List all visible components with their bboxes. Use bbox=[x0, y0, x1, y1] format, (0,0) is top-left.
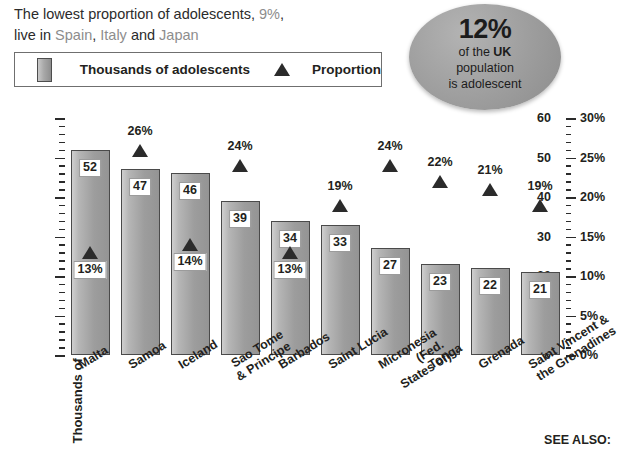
y-minor-tick-right bbox=[566, 165, 571, 167]
y-minor-tick-left bbox=[59, 173, 65, 175]
y-minor-tick-right bbox=[566, 268, 571, 270]
y-minor-tick-right bbox=[566, 300, 571, 302]
y-minor-tick-left bbox=[59, 244, 65, 246]
proportion-value-label: 13% bbox=[73, 261, 106, 279]
y-minor-tick-left bbox=[59, 134, 65, 136]
y-minor-tick-left bbox=[59, 308, 65, 310]
y-minor-tick-right bbox=[566, 181, 571, 183]
bar-2[interactable]: 47 bbox=[121, 169, 160, 355]
y-minor-tick-right bbox=[566, 142, 571, 144]
y-minor-tick-right bbox=[566, 292, 571, 294]
y-minor-tick-left bbox=[59, 205, 65, 207]
headline-sep-2: and bbox=[127, 27, 159, 43]
y-tick-right bbox=[566, 118, 576, 120]
y-tick-label-right: 30% bbox=[580, 111, 605, 125]
y-minor-tick-right bbox=[566, 229, 571, 231]
headline-country-italy: Italy bbox=[100, 27, 127, 43]
legend-bar-swatch bbox=[37, 58, 52, 82]
proportion-marker-4[interactable] bbox=[232, 159, 248, 172]
y-tick-right bbox=[566, 197, 576, 199]
uk-statistic-callout: 12% of the UK population is adolescent bbox=[409, 4, 561, 110]
proportion-marker-10[interactable] bbox=[532, 199, 548, 212]
proportion-marker-3[interactable] bbox=[182, 238, 198, 251]
y-tick-left bbox=[55, 158, 65, 160]
callout-line-1: of the UK bbox=[409, 45, 561, 60]
y-tick-left bbox=[55, 197, 65, 199]
proportion-marker-2[interactable] bbox=[132, 144, 148, 157]
y-minor-tick-right bbox=[566, 284, 571, 286]
y-minor-tick-left bbox=[59, 339, 65, 341]
y-minor-tick-right bbox=[566, 252, 571, 254]
proportion-value-label: 26% bbox=[127, 124, 152, 138]
y-tick-label-left: 60 bbox=[537, 111, 551, 125]
headline-country-spain: Spain bbox=[55, 27, 92, 43]
bar-4[interactable]: 39 bbox=[221, 201, 260, 355]
legend-bar-label: Thousands of adolescents bbox=[80, 62, 250, 77]
y-tick-label-right: 10% bbox=[580, 269, 605, 283]
proportion-marker-5[interactable] bbox=[282, 246, 298, 259]
callout-big-number: 12% bbox=[409, 14, 561, 44]
headline-line-1: The lowest proportion of adolescents, 9%… bbox=[14, 4, 414, 25]
headline-text: The lowest proportion of adolescents, 9%… bbox=[14, 4, 414, 46]
y-tick-label-right: 20% bbox=[580, 190, 605, 204]
y-minor-tick-right bbox=[566, 205, 571, 207]
y-tick-label-right: 25% bbox=[580, 151, 605, 165]
y-minor-tick-right bbox=[566, 150, 571, 152]
proportion-value-label: 24% bbox=[377, 139, 402, 153]
y-minor-tick-left bbox=[59, 221, 65, 223]
proportion-value-label: 24% bbox=[227, 139, 252, 153]
y-minor-tick-right bbox=[566, 323, 571, 325]
y-minor-tick-right bbox=[566, 173, 571, 175]
bar-value-label: 47 bbox=[129, 178, 151, 196]
y-tick-right bbox=[566, 158, 576, 160]
proportion-marker-6[interactable] bbox=[332, 199, 348, 212]
callout-uk: UK bbox=[493, 45, 511, 59]
bar-value-label: 27 bbox=[379, 257, 401, 275]
callout-line-3: is adolescent bbox=[409, 77, 561, 92]
bar-value-label: 34 bbox=[279, 230, 301, 248]
y-minor-tick-right bbox=[566, 260, 571, 262]
y-minor-tick-left bbox=[59, 189, 65, 191]
y-minor-tick-left bbox=[59, 252, 65, 254]
y-minor-tick-left bbox=[59, 284, 65, 286]
proportion-marker-8[interactable] bbox=[432, 175, 448, 188]
y-minor-tick-right bbox=[566, 134, 571, 136]
y-minor-tick-right bbox=[566, 213, 571, 215]
headline-line2-a: live in bbox=[14, 27, 55, 43]
y-minor-tick-left bbox=[59, 331, 65, 333]
y-minor-tick-left bbox=[59, 181, 65, 183]
bar-value-label: 33 bbox=[329, 234, 351, 252]
callout-line-2: population bbox=[409, 61, 561, 76]
y-minor-tick-right bbox=[566, 189, 571, 191]
y-minor-tick-right bbox=[566, 126, 571, 128]
chart-legend: Thousands of adolescents Proportion bbox=[14, 52, 382, 87]
plot-area: Thousands of adolescents Proportion 0102… bbox=[65, 118, 565, 355]
y-tick-right bbox=[566, 276, 576, 278]
y-minor-tick-left bbox=[59, 323, 65, 325]
proportion-value-label: 13% bbox=[273, 261, 306, 279]
y-minor-tick-left bbox=[59, 150, 65, 152]
bar-value-label: 52 bbox=[79, 159, 101, 177]
proportion-marker-7[interactable] bbox=[382, 159, 398, 172]
y-minor-tick-left bbox=[59, 126, 65, 128]
y-minor-tick-right bbox=[566, 244, 571, 246]
legend-triangle-icon bbox=[274, 63, 290, 76]
legend-marker-label: Proportion bbox=[312, 62, 381, 77]
y-tick-left bbox=[55, 237, 65, 239]
bar-value-label: 39 bbox=[229, 210, 251, 228]
y-minor-tick-left bbox=[59, 292, 65, 294]
bar-value-label: 22 bbox=[479, 277, 501, 295]
bar-value-label: 46 bbox=[179, 182, 201, 200]
y-tick-label-right: 15% bbox=[580, 230, 605, 244]
proportion-value-label: 21% bbox=[477, 163, 502, 177]
callout-line1-a: of the bbox=[459, 45, 494, 59]
proportion-value-label: 19% bbox=[327, 179, 352, 193]
y-tick-label-left: 30 bbox=[537, 230, 551, 244]
y-minor-tick-left bbox=[59, 142, 65, 144]
proportion-marker-9[interactable] bbox=[482, 183, 498, 196]
y-tick-left bbox=[55, 355, 65, 357]
proportion-marker-1[interactable] bbox=[82, 246, 98, 259]
y-minor-tick-left bbox=[59, 229, 65, 231]
see-also-label: SEE ALSO: bbox=[544, 433, 611, 447]
y-minor-tick-left bbox=[59, 268, 65, 270]
